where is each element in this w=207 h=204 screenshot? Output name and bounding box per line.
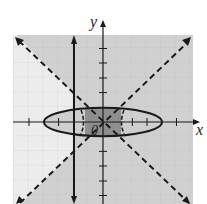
y-axis-arrow-icon xyxy=(100,20,106,27)
origin-label: 0 xyxy=(91,123,98,139)
y-axis-label: y xyxy=(90,13,97,31)
graph-canvas xyxy=(0,0,207,204)
x-axis-label: x xyxy=(196,121,203,139)
